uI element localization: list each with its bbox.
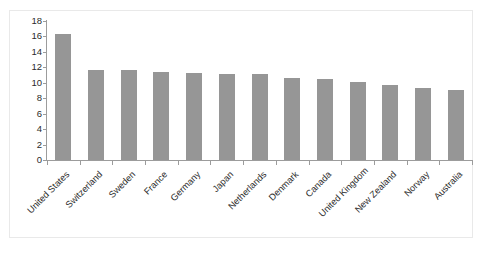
bar-chart-figure: 024681012141618 United StatesSwitzerland…	[0, 0, 482, 254]
y-axis-tick-label: 0	[37, 155, 42, 165]
x-axis-tick-mark	[210, 160, 211, 165]
bar	[121, 70, 137, 160]
x-axis-tick-mark	[112, 160, 113, 165]
x-axis-tick-mark	[472, 160, 473, 165]
x-axis-tick-mark	[47, 160, 48, 165]
y-axis-tick-label: 2	[37, 140, 42, 150]
y-axis-tick-label: 10	[31, 78, 42, 88]
y-axis-tick-label: 8	[37, 93, 42, 103]
x-axis-tick-mark	[276, 160, 277, 165]
bar	[382, 85, 398, 160]
y-axis-tick-label: 18	[31, 16, 42, 26]
bar	[55, 34, 71, 160]
x-axis-tick-mark	[80, 160, 81, 165]
y-axis-tick-label: 4	[37, 124, 42, 134]
bar	[284, 78, 300, 160]
bars-layer	[47, 21, 472, 160]
y-axis-tick-label: 16	[31, 32, 42, 42]
x-axis-tick-mark	[439, 160, 440, 165]
x-axis-tick-mark	[341, 160, 342, 165]
x-axis-tick-mark	[309, 160, 310, 165]
x-axis-tick-mark	[243, 160, 244, 165]
bar	[219, 74, 235, 160]
bar	[252, 74, 268, 160]
bar	[186, 73, 202, 160]
y-axis-tick-label: 14	[31, 47, 42, 57]
bar	[350, 82, 366, 160]
x-axis-line	[46, 160, 473, 161]
y-axis-tick-label: 6	[37, 109, 42, 119]
x-axis-tick-mark	[145, 160, 146, 165]
plot-area: 024681012141618	[47, 21, 472, 160]
bar	[448, 90, 464, 160]
x-axis-tick-mark	[178, 160, 179, 165]
bar	[317, 79, 333, 160]
x-axis-tick-mark	[407, 160, 408, 165]
bar	[88, 70, 104, 160]
bar	[415, 88, 431, 160]
bar	[153, 72, 169, 160]
y-axis-tick-label: 12	[31, 63, 42, 73]
x-axis-tick-mark	[374, 160, 375, 165]
